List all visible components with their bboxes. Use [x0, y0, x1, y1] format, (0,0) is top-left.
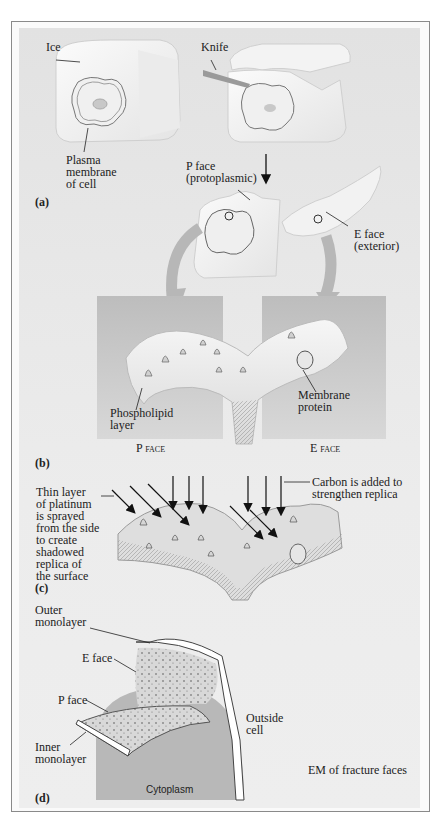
caption-p-face: P face: [136, 442, 165, 455]
label-carbon-2: strengthen replica: [312, 488, 398, 501]
label-p-face-d: P face: [58, 694, 87, 707]
label-outer-monolayer-2: monolayer: [35, 616, 86, 629]
label-panel-d: (d): [35, 792, 50, 805]
label-plasma-membrane-3: of cell: [66, 178, 96, 191]
ice-block-fractured: [203, 44, 350, 142]
label-cytoplasm: Cytoplasm: [146, 783, 193, 796]
caption-em-fracture-faces: EM of fracture faces: [308, 764, 407, 777]
label-p-face-2: (protoplasmic): [186, 172, 257, 185]
label-panel-b: (b): [35, 457, 50, 470]
label-panel-c: (c): [35, 582, 48, 595]
ice-block-intact: [56, 40, 180, 142]
label-knife: Knife: [201, 41, 228, 54]
shadowed-replica: [118, 504, 342, 600]
label-panel-a: (a): [35, 196, 49, 209]
label-e-face-d: E face: [82, 652, 112, 665]
label-ice: Ice: [46, 41, 61, 54]
pointer-arrow-eface: [326, 236, 331, 294]
caption-e-face: E face: [310, 442, 340, 455]
label-outside-cell-2: cell: [246, 724, 263, 737]
label-inner-monolayer-2: monolayer: [35, 753, 86, 766]
label-phospholipid-2: layer: [110, 419, 134, 432]
label-e-face-2: (exterior): [354, 240, 399, 253]
label-membrane-protein-2: protein: [298, 401, 332, 414]
